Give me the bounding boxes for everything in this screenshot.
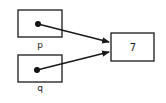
- pointer-label-p: p: [37, 40, 43, 50]
- pointer-label-q: q: [37, 83, 43, 93]
- value-text: 7: [130, 42, 136, 53]
- pointer-q: q: [18, 52, 109, 93]
- pointer-diagram: p q 7: [0, 0, 166, 103]
- value-cell: 7: [111, 33, 154, 61]
- pointer-p: p: [18, 10, 109, 50]
